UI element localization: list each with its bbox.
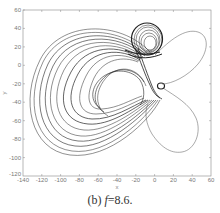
figure-caption: (b) f=8.6. [0,193,220,208]
x-tick: 40 [189,177,196,183]
trajectory-curves [30,23,206,155]
x-axis: -140 -120 -100 -80 -60 -40 -20 0 20 40 6… [17,10,215,190]
x-tick: -120 [36,177,49,183]
y-tick: -40 [12,99,21,105]
x-tick: -80 [75,177,84,183]
x-tick: 0 [153,177,157,183]
y-tick: 0 [18,62,22,68]
x-tick: -60 [94,177,103,183]
y-tick: -60 [12,118,21,124]
plot-frame [23,10,211,176]
x-tick: -20 [131,177,140,183]
y-tick: 40 [14,25,21,31]
x-tick: 20 [170,177,177,183]
x-tick: -100 [55,177,68,183]
y-tick: 20 [14,44,21,50]
y-tick: -80 [12,136,21,142]
x-tick: -140 [17,177,30,183]
y-axis-label: y [1,92,7,95]
y-axis: 60 40 20 0 -20 -40 -60 -80 -100 -120 y [1,7,211,177]
x-tick: 60 [208,177,215,183]
phase-portrait-chart: 60 40 20 0 -20 -40 -60 -80 -100 -120 y [0,0,220,195]
y-tick: 60 [14,7,21,13]
x-tick: -40 [113,177,122,183]
y-tick: -100 [9,155,22,161]
x-axis-label: x [116,184,119,190]
y-tick: -20 [12,81,21,87]
